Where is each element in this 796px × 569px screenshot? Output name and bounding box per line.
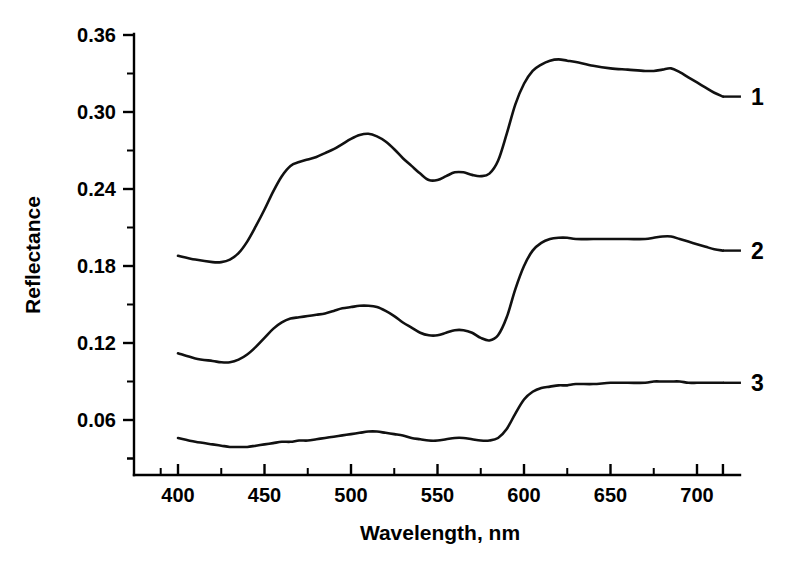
curve-labels-group: 123 (723, 84, 764, 396)
x-tick-label: 450 (248, 484, 281, 506)
x-tick-label: 500 (334, 484, 367, 506)
spectrum-curve-3 (178, 381, 723, 447)
y-tick-label: 0.30 (77, 101, 116, 123)
x-axis-title: Wavelength, nm (360, 521, 520, 544)
y-tick-label: 0.18 (77, 255, 116, 277)
curve-label-2: 2 (751, 238, 764, 264)
y-axis-ticks (123, 35, 134, 459)
x-tick-label: 550 (421, 484, 454, 506)
curve-label-1: 1 (751, 84, 764, 110)
x-tick-label: 400 (161, 484, 194, 506)
x-tick-label: 600 (507, 484, 540, 506)
y-tick-label: 0.36 (77, 24, 116, 46)
reflectance-spectra-figure: 0.060.120.180.240.300.36 400450500550600… (0, 0, 796, 569)
y-tick-label: 0.12 (77, 332, 116, 354)
axes-group: 0.060.120.180.240.300.36 400450500550600… (77, 24, 740, 506)
x-tick-label: 700 (680, 484, 713, 506)
spectrum-curve-2 (178, 236, 723, 362)
x-axis-ticks (161, 464, 723, 475)
curve-label-3: 3 (751, 370, 764, 396)
chart-canvas: 0.060.120.180.240.300.36 400450500550600… (0, 0, 796, 569)
y-axis-title: Reflectance (21, 196, 44, 314)
y-axis-tick-labels: 0.060.120.180.240.300.36 (77, 24, 117, 431)
spectral-curves-group (178, 59, 723, 447)
spectrum-curve-1 (178, 59, 723, 262)
y-tick-label: 0.06 (77, 409, 116, 431)
x-axis-tick-labels: 400450500550600650700 (161, 484, 713, 506)
x-tick-label: 650 (594, 484, 627, 506)
y-tick-label: 0.24 (77, 178, 117, 200)
